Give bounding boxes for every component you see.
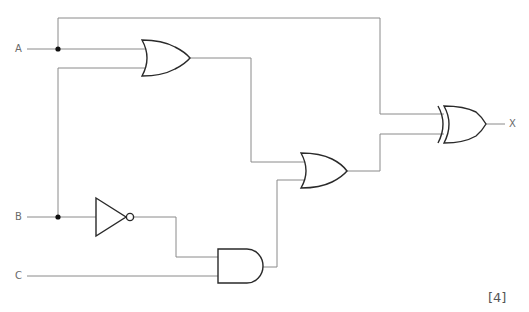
output-label-x: X (509, 118, 516, 129)
wire-and-to-or2 (263, 180, 305, 267)
junction-a (55, 46, 60, 51)
or-gate-1 (142, 40, 190, 76)
input-label-a: A (15, 43, 22, 54)
wire-b-to-or1 (58, 68, 146, 217)
and-gate (218, 249, 263, 283)
wire-or1-to-or2 (190, 58, 305, 162)
marks-allocation: [4] (488, 290, 506, 305)
xor-gate (438, 106, 486, 143)
logic-circuit (0, 0, 529, 312)
wire-not-to-and (134, 217, 218, 257)
input-label-b: B (15, 211, 22, 222)
not-gate (96, 198, 134, 236)
wires (27, 18, 505, 276)
input-label-c: C (15, 270, 22, 281)
or-gate-2 (301, 153, 347, 188)
junction-b (55, 214, 60, 219)
wire-or2-to-xor (347, 134, 444, 171)
